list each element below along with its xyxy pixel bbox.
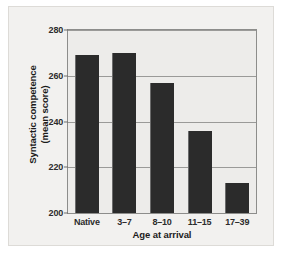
x-axis-title: Age at arrival — [67, 229, 257, 240]
x-tick-label: 17–39 — [225, 217, 249, 227]
y-axis-title-line2: (mean score) — [38, 86, 49, 144]
bar-series — [68, 30, 256, 213]
bar — [150, 83, 174, 213]
y-axis-title-line1: Syntactic competence — [27, 65, 38, 163]
y-tick-label: 280 — [49, 25, 63, 35]
x-tick-label: Native — [74, 217, 100, 227]
plot-area: 200220240260280 Native3–78–1011–1517–39 — [67, 29, 257, 214]
bar — [112, 53, 136, 213]
y-tick-label: 240 — [49, 117, 63, 127]
bar — [75, 55, 99, 213]
y-axis-title: Syntactic competence (mean score) — [27, 40, 50, 190]
x-tick-label: 8–10 — [152, 217, 171, 227]
y-tick-label: 260 — [49, 71, 63, 81]
bar — [188, 131, 212, 213]
y-tick-label: 220 — [49, 162, 63, 172]
bar — [225, 183, 249, 213]
x-tick-label: 3–7 — [117, 217, 131, 227]
y-tick-label: 200 — [49, 208, 63, 218]
x-tick-label: 11–15 — [188, 217, 212, 227]
figure-card: Syntactic competence (mean score) 200220… — [8, 6, 274, 246]
